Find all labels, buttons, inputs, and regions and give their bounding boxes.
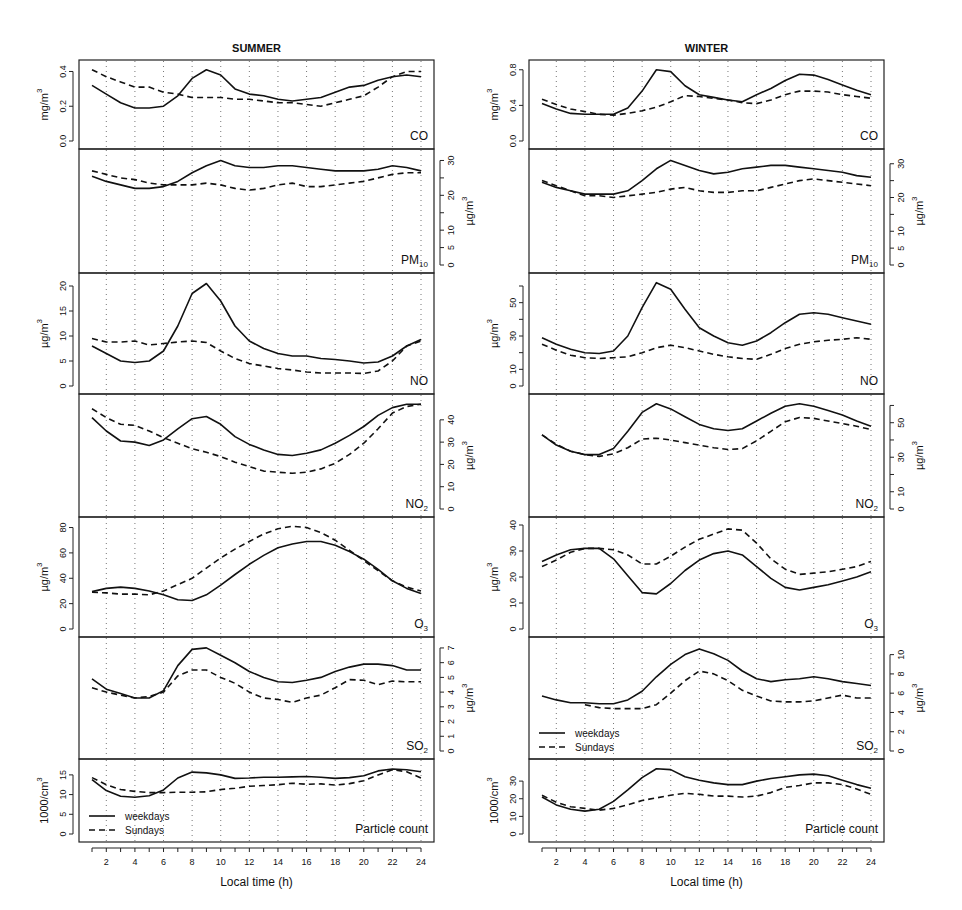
y-axis-label: mg/m3 (485, 88, 500, 121)
y-tick-label: 40 (58, 573, 68, 583)
panel-label: SO2 (406, 739, 428, 755)
x-tick-label: 24 (416, 857, 426, 867)
y-tick-label: 30 (446, 155, 456, 165)
y-axis-label: µg/m3 (35, 318, 50, 348)
y-axis-label: µg/m3 (460, 440, 475, 470)
x-tick-label: 4 (132, 857, 137, 867)
panel-frame (529, 394, 884, 517)
panel-frame (529, 273, 884, 394)
y-tick-label: 6 (446, 660, 456, 665)
y-tick-label: 8 (896, 671, 906, 676)
y-tick-label: 20 (58, 599, 68, 609)
y-tick-label: 2 (446, 719, 456, 724)
sundays-line (92, 171, 421, 190)
y-tick-label: 0.8 (508, 64, 518, 77)
y-tick-label: 0 (446, 506, 456, 511)
x-tick-label: 12 (694, 857, 704, 867)
y-tick-label: 0 (508, 626, 518, 631)
x-tick-label: 10 (666, 857, 676, 867)
legend-weekdays-label: weekdays (124, 811, 169, 822)
x-tick-label: 14 (723, 857, 733, 867)
y-tick-label: 0 (446, 262, 456, 267)
sundays-line (92, 70, 421, 107)
x-tick-label: 2 (554, 857, 559, 867)
sundays-line (542, 783, 871, 810)
y-tick-label: 0 (58, 831, 68, 836)
x-tick-label: 2 (104, 857, 109, 867)
sundays-line (92, 404, 421, 473)
y-tick-label: 0.0 (58, 135, 68, 148)
legend-sundays-label: Sundays (125, 825, 164, 836)
y-tick-label: 4 (896, 710, 906, 715)
y-tick-label: 20 (446, 459, 456, 469)
y-tick-label: 10 (58, 331, 68, 341)
column-title: SUMMER (232, 42, 281, 54)
y-tick-label: 3 (446, 704, 456, 709)
weekdays-line (542, 70, 871, 115)
x-tick-label: 22 (387, 857, 397, 867)
y-axis-label: µg/m3 (485, 318, 500, 348)
weekdays-line (92, 284, 421, 364)
y-tick-label: 2 (896, 729, 906, 734)
panel-frames (79, 60, 884, 842)
x-axis-label: Local time (h) (670, 875, 743, 889)
y-tick-label: 60 (58, 548, 68, 558)
y-axis-label: 1000/cm3 (35, 777, 50, 824)
sundays-line (542, 91, 871, 115)
y-tick-label: 0 (446, 748, 456, 753)
panel-label: NO2 (406, 497, 429, 513)
y-tick-label: 40 (446, 415, 456, 425)
panel-frame (529, 60, 884, 149)
y-tick-label: 30 (508, 776, 518, 786)
y-tick-label: 4 (446, 690, 456, 695)
weekdays-line (92, 648, 421, 698)
y-tick-label: 6 (896, 691, 906, 696)
panel-frame (529, 149, 884, 273)
panel-label: O3 (414, 617, 428, 633)
y-tick-label: 0 (508, 383, 518, 388)
x-tick-label: 22 (837, 857, 847, 867)
y-tick-label: 10 (896, 487, 906, 497)
diurnal-pollutant-chart: SUMMER0.00.20.4mg/m3CO05102030µg/m3PM100… (0, 0, 962, 910)
y-tick-label: 15 (58, 306, 68, 316)
y-tick-label: 20 (896, 192, 906, 202)
y-axis-label: mg/m3 (35, 88, 50, 121)
weekdays-line (92, 404, 421, 455)
y-tick-label: 30 (896, 159, 906, 169)
x-tick-label: 24 (866, 857, 876, 867)
y-tick-label: 30 (896, 452, 906, 462)
panel-label: Particle count (805, 822, 878, 836)
y-tick-label: 5 (446, 245, 456, 250)
sundays-line (92, 339, 421, 374)
panel-frame (79, 517, 434, 637)
y-tick-label: 0.2 (58, 100, 68, 113)
y-tick-label: 10 (446, 482, 456, 492)
gridlines (106, 61, 871, 841)
x-tick-label: 6 (161, 857, 166, 867)
y-tick-label: 40 (508, 520, 518, 530)
y-tick-label: 10 (896, 650, 906, 660)
x-tick-label: 8 (190, 857, 195, 867)
data-lines (92, 70, 871, 811)
y-tick-label: 10 (508, 364, 518, 374)
panel-label: NO (860, 374, 878, 388)
y-axis-label: µg/m3 (460, 683, 475, 713)
y-tick-label: 1 (446, 734, 456, 739)
sundays-line (542, 529, 871, 575)
y-tick-label: 0.0 (508, 135, 518, 148)
y-tick-label: 0.4 (508, 99, 518, 112)
x-tick-label: 6 (611, 857, 616, 867)
y-tick-label: 0 (896, 506, 906, 511)
x-tick-label: 14 (273, 857, 283, 867)
y-tick-label: 50 (508, 298, 518, 308)
y-tick-label: 30 (508, 546, 518, 556)
x-tick-label: 20 (809, 857, 819, 867)
panel-frame (79, 394, 434, 517)
y-tick-label: 0 (896, 748, 906, 753)
weekdays-line (92, 70, 421, 108)
y-tick-label: 5 (446, 675, 456, 680)
sundays-line (542, 338, 871, 360)
panel-label: SO2 (856, 739, 878, 755)
weekdays-line (542, 160, 871, 194)
y-tick-label: 5 (58, 358, 68, 363)
